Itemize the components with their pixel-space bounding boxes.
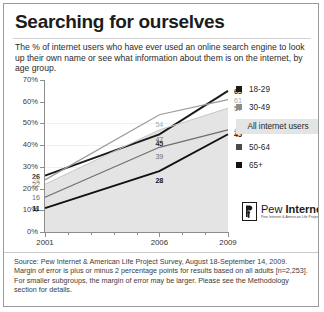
data-label: 22: [32, 180, 40, 189]
chart-card: Searching for ourselves The % of interne…: [3, 3, 319, 307]
logo-tagline: Pew Internet & American Life Project: [261, 216, 319, 219]
legend-swatch-18-29: [236, 86, 242, 92]
legend-item-30-49[interactable]: 30-49: [236, 98, 319, 116]
legend-label: 50-64: [249, 143, 270, 152]
logo-wordmark: Pew Internet: [261, 204, 319, 215]
logo-word-pew: Pew: [261, 203, 285, 215]
x-axis-tick: [205, 232, 206, 235]
data-label: 16: [32, 193, 40, 202]
legend-label: 65+: [249, 161, 263, 170]
x-axis-tick: [228, 232, 229, 237]
legend-item-50-64[interactable]: 50-64: [236, 138, 319, 156]
pew-logo-icon: [242, 202, 257, 221]
x-axis-tick: [182, 232, 183, 235]
legend-item-65-plus[interactable]: 65+: [236, 156, 319, 174]
x-axis-tick: [68, 232, 69, 235]
data-label: 54: [155, 119, 163, 128]
x-axis-tick: [137, 232, 138, 235]
data-label: 28: [155, 176, 163, 185]
all-internet-users-area: [45, 108, 228, 232]
line-chart-plot: 0%10%20%30%40%50%60%70% 200120062009 262…: [12, 80, 230, 248]
legend-swatch-65-plus: [236, 162, 242, 168]
page-title: Searching for ourselves: [15, 11, 225, 33]
legend-item-all-internet-users[interactable]: All internet users: [236, 119, 319, 134]
pew-internet-logo: Pew Internet Pew Internet & American Lif…: [242, 202, 319, 221]
legend-label: 30-49: [249, 103, 270, 112]
chart-legend: 18-29 30-49 All internet users 50-64 65+: [236, 80, 319, 174]
x-axis-tick: [91, 232, 92, 235]
data-label: 47: [155, 134, 163, 143]
chart-subtitle: The % of internet users who have ever us…: [15, 42, 305, 74]
legend-swatch-50-64: [236, 144, 242, 150]
legend-swatch-30-49: [236, 104, 242, 110]
y-axis-line: [44, 80, 45, 232]
title-divider: [13, 38, 311, 39]
pew-logo-text: Pew Internet Pew Internet & American Lif…: [261, 204, 319, 220]
footer-divider: [4, 252, 318, 253]
source-note: Source: Pew Internet & American Life Pro…: [14, 257, 310, 295]
data-label: 11: [32, 204, 40, 213]
x-axis-label: 2001: [36, 238, 53, 247]
x-axis-label: 2009: [219, 238, 236, 247]
data-label: 39: [155, 152, 163, 161]
logo-word-internet: Internet: [285, 203, 319, 215]
x-axis-tick: [45, 232, 46, 237]
x-axis-tick: [159, 232, 160, 237]
legend-label: 18-29: [249, 85, 270, 94]
x-axis-label: 2006: [151, 238, 168, 247]
x-axis-tick: [114, 232, 115, 235]
legend-item-18-29[interactable]: 18-29: [236, 80, 319, 98]
